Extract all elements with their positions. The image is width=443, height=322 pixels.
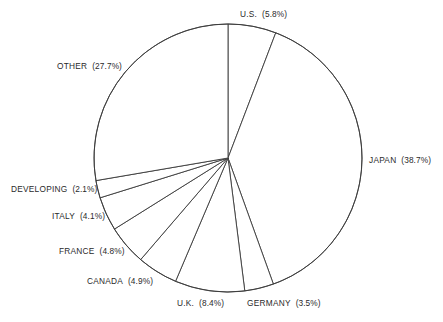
pie-label-u-s: U.S. (5.8%) — [240, 9, 287, 19]
pie-label-japan: JAPAN (38.7%) — [369, 155, 431, 165]
pie-label-pct-canada: (4.9%) — [128, 276, 153, 286]
pie-label-pct-france: (4.8%) — [100, 246, 125, 256]
pie-label-developing: DEVELOPING (2.1%) — [11, 184, 97, 194]
pie-label-italy: ITALY (4.1%) — [52, 211, 105, 221]
pie-label-name-germany: GERMANY — [247, 298, 291, 308]
pie-slice-other — [94, 24, 228, 181]
pie-chart: U.S. (5.8%)JAPAN (38.7%)GERMANY (3.5%)U.… — [0, 0, 443, 322]
pie-slices-group — [94, 24, 362, 292]
pie-label-pct-developing: (2.1%) — [72, 184, 97, 194]
pie-label-name-canada: CANADA — [87, 276, 123, 286]
pie-label-pct-germany: (3.5%) — [296, 298, 321, 308]
pie-label-u-k: U.K. (8.4%) — [177, 298, 224, 308]
pie-label-pct-italy: (4.1%) — [80, 211, 105, 221]
pie-label-germany: GERMANY (3.5%) — [247, 298, 321, 308]
pie-label-name-japan: JAPAN — [369, 155, 396, 165]
pie-label-name-france: FRANCE — [59, 246, 95, 256]
pie-label-name-developing: DEVELOPING — [11, 184, 67, 194]
pie-label-name-u-s: U.S. — [240, 9, 257, 19]
pie-label-france: FRANCE (4.8%) — [59, 246, 125, 256]
pie-label-pct-japan: (38.7%) — [401, 155, 431, 165]
pie-label-name-italy: ITALY — [52, 211, 75, 221]
pie-label-pct-u-s: (5.8%) — [262, 9, 287, 19]
pie-label-name-u-k: U.K. — [177, 298, 194, 308]
pie-label-canada: CANADA (4.9%) — [87, 276, 153, 286]
pie-label-name-other: OTHER — [57, 61, 87, 71]
pie-label-pct-u-k: (8.4%) — [199, 298, 224, 308]
pie-label-other: OTHER (27.7%) — [57, 61, 122, 71]
pie-label-pct-other: (27.7%) — [92, 61, 122, 71]
